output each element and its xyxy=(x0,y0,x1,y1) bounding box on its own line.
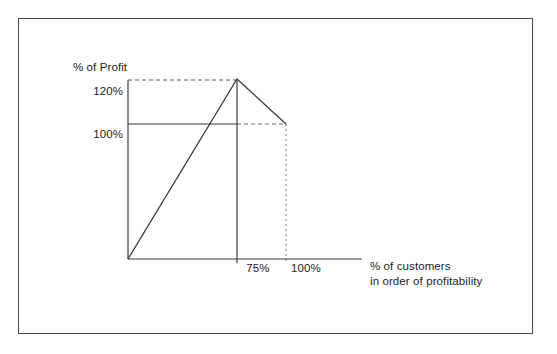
x-tick-label-100: 100% xyxy=(291,262,321,274)
x-axis-title-line-2: in order of profitability xyxy=(370,274,482,289)
y-tick-label-120: 120% xyxy=(93,85,123,97)
figure-container: % of Profit 120% 100% 75% 100% % of cust… xyxy=(0,0,557,354)
x-axis-title: % of customers in order of profitability xyxy=(370,259,482,289)
y-axis-title: % of Profit xyxy=(73,61,127,73)
chart-plot-area xyxy=(0,0,557,354)
x-tick-label-75: 75% xyxy=(246,262,269,274)
profit-curve xyxy=(128,79,286,259)
x-axis-title-line-1: % of customers xyxy=(370,259,482,274)
y-tick-label-100: 100% xyxy=(93,128,123,140)
